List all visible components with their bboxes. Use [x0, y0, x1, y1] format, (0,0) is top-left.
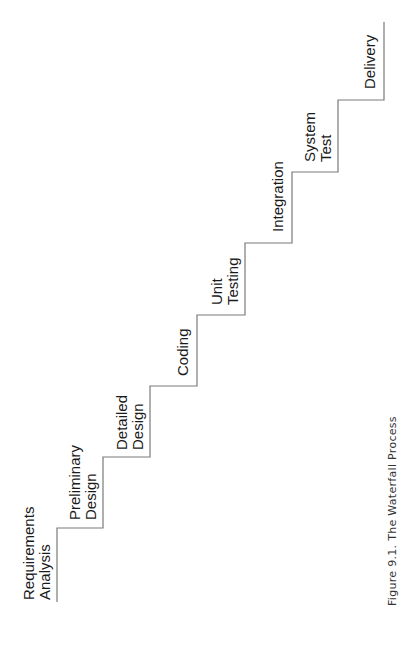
figure-caption: Figure 9.1. The Waterfall Process	[386, 416, 399, 606]
phase-label-line1: Requirements	[20, 507, 37, 600]
phase-detailed-design: Detailed Design	[113, 395, 146, 450]
phase-label-line2: Design	[82, 473, 99, 520]
phase-system-test: System Test	[301, 112, 334, 162]
phase-label-line1: Delivery	[361, 34, 378, 89]
phase-label-line1: Preliminary	[66, 444, 83, 520]
figure-caption-text: Figure 9.1. The Waterfall Process	[386, 416, 399, 606]
phase-label-line1: Coding	[174, 328, 191, 376]
phase-integration: Integration	[269, 161, 286, 232]
phase-unit-testing: Unit Testing	[208, 257, 241, 305]
waterfall-staircase	[57, 22, 384, 602]
phase-label-line2: Analysis	[36, 544, 53, 600]
phase-label-line2: Test	[317, 134, 334, 162]
phase-label-line1: Detailed	[113, 395, 130, 450]
phase-label-line1: Unit	[208, 277, 225, 305]
phase-preliminary-design: Preliminary Design	[66, 444, 99, 520]
phase-coding: Coding	[174, 328, 191, 376]
phase-label-line2: Testing	[224, 257, 241, 305]
phase-label-line1: System	[301, 112, 318, 162]
waterfall-diagram: Requirements Analysis Preliminary Design…	[0, 0, 414, 648]
phase-requirements-analysis: Requirements Analysis	[20, 507, 53, 600]
phase-label-line1: Integration	[269, 161, 286, 232]
phase-delivery: Delivery	[361, 34, 378, 89]
phase-label-line2: Design	[129, 403, 146, 450]
